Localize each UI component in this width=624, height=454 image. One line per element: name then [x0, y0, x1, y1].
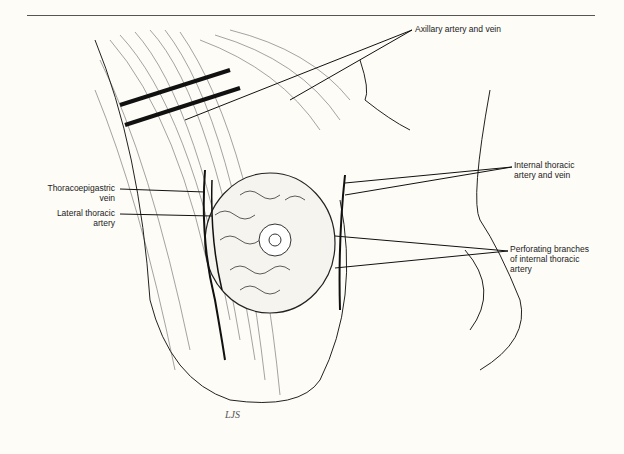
label-lateral-thoracic: Lateral thoracicartery [20, 208, 115, 228]
internal-thoracic-vessels [340, 175, 345, 310]
artist-signature: LJS [224, 409, 240, 420]
contralateral-breast [465, 250, 484, 330]
nipple [269, 234, 281, 246]
label-thoracoepigastric: Thoracoepigastricvein [20, 183, 115, 203]
label-internal-thoracic: Internal thoracicartery and vein [514, 160, 574, 180]
label-axillary: Axillary artery and vein [415, 24, 501, 34]
contralateral-outline [477, 90, 522, 370]
label-perforating: Perforating branchesof internal thoracic… [510, 244, 589, 274]
clavicle-outline [360, 60, 410, 130]
